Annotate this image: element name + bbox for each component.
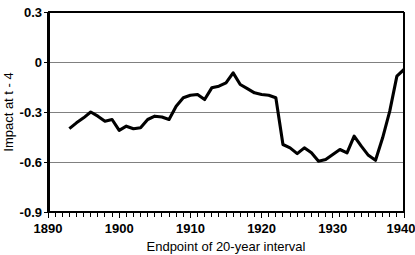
x-tick-label-1940: 1940 <box>387 221 415 236</box>
x-tick-label-1910: 1910 <box>176 221 205 236</box>
x-axis-title: Endpoint of 20-year interval <box>147 239 306 254</box>
y-tick-label-0: 0 <box>35 55 42 70</box>
y-tick-label-0-3: 0.3 <box>24 5 42 20</box>
chart-figure: 0.3 0 -0.3 -0.6 -0.9 1890 1900 1910 1920… <box>0 0 415 255</box>
x-tick-label-1930: 1930 <box>318 221 347 236</box>
x-tick-label-1920: 1920 <box>247 221 276 236</box>
x-tick-label-1900: 1900 <box>105 221 134 236</box>
y-tick-label-neg0-9: -0.9 <box>20 205 42 220</box>
y-tick-label-neg0-6: -0.6 <box>20 155 42 170</box>
x-tick-label-1890: 1890 <box>34 221 63 236</box>
y-axis-title: Impact at t - 4 <box>1 72 16 151</box>
y-tick-label-neg0-3: -0.3 <box>20 105 42 120</box>
impact-line-chart: 0.3 0 -0.3 -0.6 -0.9 1890 1900 1910 1920… <box>0 0 415 255</box>
